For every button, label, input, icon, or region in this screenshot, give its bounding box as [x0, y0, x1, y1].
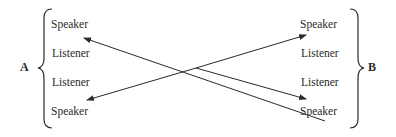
b-item-listener-2: Listener — [301, 75, 339, 89]
b-item-speaker-bottom: Speaker — [300, 104, 337, 118]
arrow-a-to-b-top — [196, 35, 306, 68]
a-item-speaker-top: Speaker — [51, 17, 88, 31]
group-a-label: A — [20, 60, 29, 75]
arrow-b-to-a-top — [84, 38, 325, 121]
b-item-speaker-top: Speaker — [300, 17, 337, 31]
right-brace — [350, 9, 364, 128]
group-b-label: B — [368, 60, 376, 75]
arrow-to-a-bottom — [87, 68, 196, 100]
left-brace — [38, 9, 52, 128]
arrow-b-to-a-top-head2 — [196, 68, 306, 99]
a-item-listener-2: Listener — [52, 75, 90, 89]
a-item-listener-1: Listener — [52, 46, 90, 60]
a-item-speaker-bottom: Speaker — [51, 104, 88, 118]
b-item-listener-1: Listener — [301, 46, 339, 60]
